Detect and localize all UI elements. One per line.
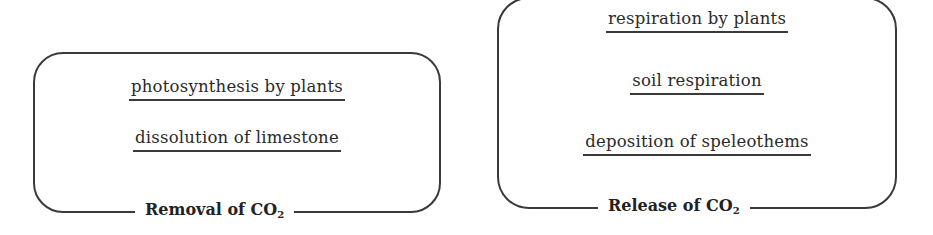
- process-item: photosynthesis by plants: [35, 77, 439, 101]
- process-item: dissolution of limestone: [35, 128, 439, 152]
- process-item: respiration by plants: [499, 9, 895, 33]
- process-item: soil respiration: [499, 71, 895, 95]
- process-item: deposition of speleothems: [499, 132, 895, 156]
- release-of-co2-box: respiration by plants soil respiration d…: [497, 0, 897, 209]
- release-caption: Release of CO2: [598, 196, 750, 216]
- removal-of-co2-box: photosynthesis by plants dissolution of …: [33, 52, 441, 213]
- removal-caption: Removal of CO2: [135, 200, 294, 220]
